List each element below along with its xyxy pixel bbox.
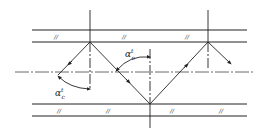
angle-arc-lower: αtc (55, 77, 89, 100)
svg-text://: // (56, 107, 62, 114)
light-ray (58, 42, 230, 104)
bottom-plate (32, 104, 247, 116)
svg-text://: // (53, 33, 59, 40)
top-plate (32, 30, 247, 42)
svg-text://: // (105, 107, 111, 114)
ray-direction-arrows (69, 61, 187, 82)
angle-label-upper: αtc (125, 47, 136, 61)
angle-arc-upper: αtc (117, 47, 149, 70)
svg-text://: // (121, 33, 127, 40)
top-plate-hatches: // // // (53, 33, 190, 40)
svg-text://: // (218, 107, 224, 114)
angle-label-lower: αtc (55, 86, 66, 100)
bottom-plate-hatches: // // // // (56, 107, 224, 114)
waveguide-diagram: // // // // // // // αtc αtc (0, 0, 263, 138)
svg-text://: // (184, 33, 190, 40)
svg-text://: // (169, 107, 175, 114)
